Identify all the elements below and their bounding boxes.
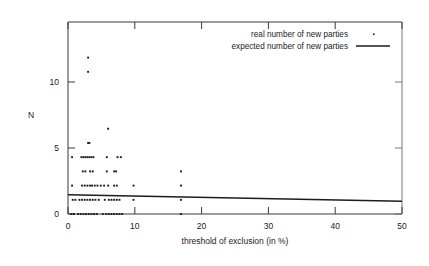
data-point — [70, 213, 72, 215]
data-point — [96, 213, 98, 215]
data-point — [92, 170, 94, 172]
data-point — [86, 199, 88, 201]
x-tick-label: 50 — [397, 221, 407, 231]
y-tick-labels: 0 5 10 — [50, 77, 60, 219]
data-point — [107, 185, 109, 187]
data-point — [80, 156, 82, 158]
data-point — [73, 213, 75, 215]
data-point — [116, 199, 118, 201]
data-point — [180, 170, 182, 172]
x-tick-label: 0 — [66, 221, 71, 231]
data-point — [111, 213, 113, 215]
data-point — [85, 213, 87, 215]
data-point — [89, 199, 91, 201]
data-point — [84, 185, 86, 187]
data-point — [119, 213, 121, 215]
data-point — [84, 170, 86, 172]
data-point — [104, 199, 106, 201]
data-point — [133, 185, 135, 187]
data-point — [84, 199, 86, 201]
data-point — [81, 199, 83, 201]
data-point — [93, 213, 95, 215]
data-point — [100, 185, 102, 187]
x-tick-label: 20 — [197, 221, 207, 231]
data-point — [102, 213, 104, 215]
y-axis-ticks — [68, 82, 402, 214]
data-point — [180, 213, 182, 215]
data-point — [89, 185, 91, 187]
data-point — [77, 213, 79, 215]
expected-trend-line — [68, 195, 402, 201]
data-point — [84, 156, 86, 158]
data-point — [113, 170, 115, 172]
x-tick-label: 40 — [330, 221, 340, 231]
data-point — [87, 71, 89, 73]
scatter-points-layer — [70, 57, 181, 215]
data-point — [80, 213, 82, 215]
data-point — [74, 199, 76, 201]
data-point — [96, 185, 98, 187]
data-point — [90, 156, 92, 158]
scatter-plot: 0 10 20 30 40 50 0 5 10 N threshold of e… — [0, 0, 429, 266]
x-axis-title: threshold of exclusion (in %) — [182, 236, 289, 246]
x-tick-labels: 0 10 20 30 40 50 — [66, 221, 407, 231]
data-point — [180, 199, 182, 201]
data-point — [82, 156, 84, 158]
data-point — [82, 213, 84, 215]
y-tick-label: 0 — [54, 209, 59, 219]
data-point — [113, 185, 115, 187]
data-point — [94, 199, 96, 201]
x-tick-label: 10 — [130, 221, 140, 231]
data-point — [113, 213, 115, 215]
data-point — [119, 199, 121, 201]
data-point — [89, 170, 91, 172]
data-point — [116, 213, 118, 215]
data-point — [107, 128, 109, 130]
data-point — [92, 199, 94, 201]
y-axis-title: N — [28, 110, 34, 120]
data-point — [87, 57, 89, 59]
data-point — [105, 213, 107, 215]
data-point — [81, 185, 83, 187]
data-point — [88, 213, 90, 215]
data-point — [91, 185, 93, 187]
data-point — [92, 156, 94, 158]
legend-label-real: real number of new parties — [251, 30, 348, 39]
x-tick-label: 30 — [264, 221, 274, 231]
data-point — [72, 199, 74, 201]
data-point — [120, 156, 122, 158]
data-point — [90, 213, 92, 215]
data-point — [106, 156, 108, 158]
data-point — [106, 170, 108, 172]
data-point — [108, 199, 110, 201]
data-point — [86, 185, 88, 187]
data-point — [98, 199, 100, 201]
data-point — [113, 199, 115, 201]
data-point — [71, 185, 73, 187]
data-point — [108, 213, 110, 215]
data-point — [103, 185, 105, 187]
chart-legend: real number of new parties expected numb… — [231, 30, 390, 51]
data-point — [82, 170, 84, 172]
data-point — [133, 199, 135, 201]
data-point — [116, 185, 118, 187]
data-point — [115, 170, 117, 172]
legend-point-marker-icon — [373, 33, 375, 35]
data-point — [88, 156, 90, 158]
y-tick-label: 10 — [50, 77, 60, 87]
data-point — [111, 199, 113, 201]
data-point — [86, 156, 88, 158]
data-point — [88, 142, 90, 144]
data-point — [78, 199, 80, 201]
legend-label-expected: expected number of new parties — [231, 42, 348, 51]
data-point — [180, 185, 182, 187]
data-point — [94, 185, 96, 187]
data-point — [71, 156, 73, 158]
trend-line — [68, 195, 402, 201]
data-point — [121, 213, 123, 215]
y-tick-label: 5 — [54, 143, 59, 153]
data-point — [117, 156, 119, 158]
chart-figure: 0 10 20 30 40 50 0 5 10 N threshold of e… — [0, 0, 429, 266]
